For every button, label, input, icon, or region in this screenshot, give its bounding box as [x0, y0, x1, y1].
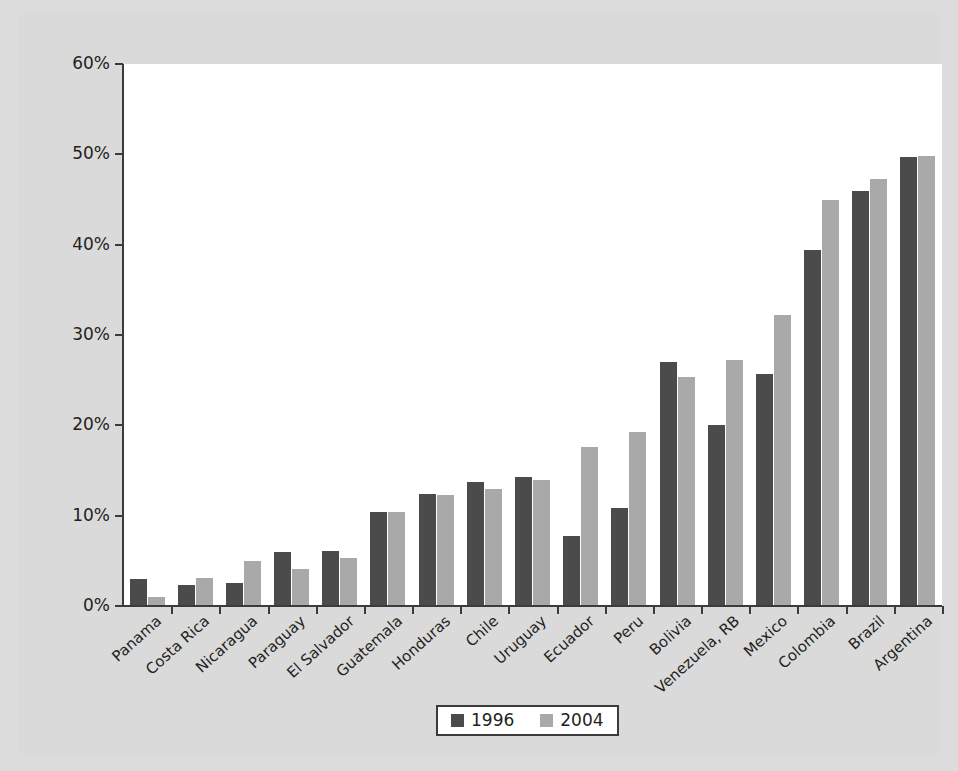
y-axis-tick-label-text: 40% [50, 236, 110, 253]
bar-1996-panama [130, 579, 147, 606]
y-axis-tick-label-text: 10% [50, 507, 110, 524]
bar-1996-mexico [756, 374, 773, 606]
bar-1996-argentina [900, 157, 917, 606]
x-axis-label-text: Peru [610, 612, 647, 648]
y-axis-tick [115, 515, 123, 517]
plot-area [123, 64, 942, 606]
x-axis-label-text: Venezuela, RB [651, 612, 743, 697]
bar-2004-brazil [870, 179, 887, 606]
legend-swatch-1996 [451, 714, 464, 727]
bar-2004-venezuela-rb [726, 360, 743, 606]
x-axis-category-labels: PanamaCosta RicaNicaraguaParaguayEl Salv… [123, 606, 942, 696]
x-axis-label-text: Brazil [844, 612, 887, 653]
bar-2004-uruguay [533, 480, 550, 606]
bar-2004-bolivia [678, 377, 695, 606]
bar-2004-colombia [822, 200, 839, 607]
y-axis-tick-label: 20% [48, 416, 110, 434]
y-axis-tick-label-text: 0% [50, 597, 110, 614]
legend-label-1996: 1996 [471, 712, 514, 729]
y-axis-tick-label: 10% [48, 507, 110, 525]
bar-1996-brazil [852, 191, 869, 606]
y-axis-tick-label: 30% [48, 326, 110, 344]
y-axis-tick [115, 63, 123, 65]
y-axis-tick-label-text: 50% [50, 145, 110, 162]
y-axis-tick-label: 40% [48, 236, 110, 254]
chart-figure: 0%10%20%30%40%50%60% PanamaCosta RicaNic… [0, 0, 958, 771]
y-axis-tick-label: 0% [48, 597, 110, 615]
y-axis-tick [115, 605, 123, 607]
y-axis-tick [115, 424, 123, 426]
chart-legend: 19962004 [436, 705, 619, 736]
legend-label-2004: 2004 [560, 712, 603, 729]
bar-2004-argentina [918, 156, 935, 606]
figure-inner-frame: 0%10%20%30%40%50%60% PanamaCosta RicaNic… [18, 14, 940, 754]
legend-swatch-2004 [540, 714, 553, 727]
bars-layer [123, 64, 942, 606]
y-axis-tick-label: 50% [48, 145, 110, 163]
y-axis-tick [115, 153, 123, 155]
y-axis-tick-label: 60% [48, 55, 110, 73]
bar-1996-venezuela-rb [708, 425, 725, 606]
y-axis-tick [115, 334, 123, 336]
bar-1996-bolivia [660, 362, 677, 606]
y-axis-tick [115, 244, 123, 246]
x-axis-label-text: Chile [462, 612, 502, 651]
legend-entry-2004: 2004 [540, 712, 603, 729]
y-axis-tick-label-text: 60% [50, 55, 110, 72]
legend-entry-1996: 1996 [451, 712, 514, 729]
y-axis-tick-label-text: 20% [50, 416, 110, 433]
y-axis-tick-label-text: 30% [50, 326, 110, 343]
